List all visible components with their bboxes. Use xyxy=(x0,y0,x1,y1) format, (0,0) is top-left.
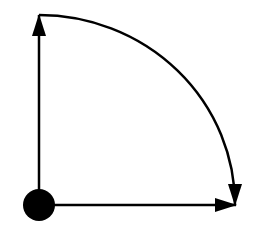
arc-arrow xyxy=(39,15,235,205)
origin-dot xyxy=(23,189,55,221)
diagram-canvas xyxy=(0,0,258,242)
